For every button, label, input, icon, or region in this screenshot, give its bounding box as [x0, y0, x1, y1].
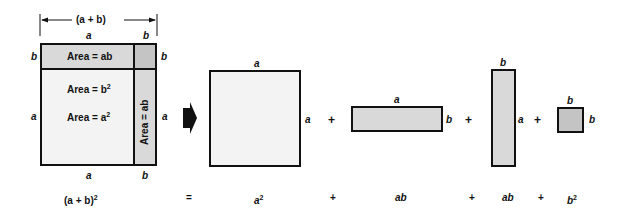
plus-operator: + — [465, 114, 472, 126]
piece-ab-horizontal — [351, 106, 443, 132]
dimension-label: (a + b) — [76, 15, 106, 25]
piece-b-squared-side-label: b — [589, 115, 595, 125]
right-label-a: a — [162, 112, 168, 122]
equation-term-b2: b2 — [567, 193, 577, 206]
area-ab-label: Area = ab — [67, 52, 112, 62]
area-b2-label: Area = b2 — [67, 82, 111, 95]
piece-a-squared-side-label: a — [305, 115, 311, 125]
piece-ab-vertical-side-label: a — [518, 115, 524, 125]
piece-ab-vertical — [491, 69, 516, 167]
bottom-label-a: a — [86, 171, 92, 181]
equation-plus: + — [330, 193, 336, 203]
piece-a-squared-top-label: a — [254, 59, 260, 69]
equation-term-ab: ab — [502, 193, 514, 203]
equation-plus: + — [469, 193, 475, 203]
left-label-a: a — [31, 112, 37, 122]
plus-operator: + — [534, 114, 541, 126]
equation-equals: = — [186, 193, 192, 203]
right-arrow-icon — [183, 102, 197, 134]
area-a2-label: Area = a2 — [67, 110, 110, 123]
region-corner-b2 — [133, 43, 157, 70]
area-ab-vertical-label: Area = ab — [140, 100, 150, 145]
piece-ab-horizontal-top-label: a — [394, 95, 400, 105]
piece-ab-horizontal-side-label: b — [446, 115, 452, 125]
piece-b-squared-top-label: b — [567, 96, 573, 106]
piece-ab-vertical-top-label: b — [500, 58, 506, 68]
plus-operator: + — [328, 114, 335, 126]
equation-term-a2: a2 — [254, 193, 263, 206]
top-label-b: b — [143, 31, 149, 41]
top-label-a: a — [86, 31, 92, 41]
equation-lhs: (a + b)2 — [64, 193, 98, 206]
piece-a-squared — [209, 70, 301, 167]
right-label-b: b — [161, 52, 167, 62]
bottom-label-b: b — [142, 171, 148, 181]
piece-b-squared — [557, 107, 584, 133]
equation-plus: + — [538, 193, 544, 203]
left-label-b: b — [31, 52, 37, 62]
equation-term-ab: ab — [395, 193, 407, 203]
